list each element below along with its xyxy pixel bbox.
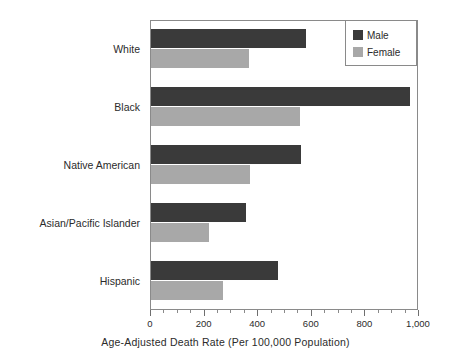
x-tick-label: 800 [356,318,372,329]
x-tick-label: 400 [249,318,265,329]
legend-entry-male: Male [353,28,389,42]
bar-group-hispanic [151,253,417,311]
x-tick-minor [177,310,178,313]
legend-label-female: Female [367,47,400,58]
bar-asian-pacific-islander-female [151,223,209,242]
bar-chart: White Black Native American Asian/Pacifi… [0,0,451,361]
bar-group-black [151,79,417,137]
category-label-black: Black [0,101,140,113]
x-tick-label: 600 [303,318,319,329]
x-tick-minor [244,310,245,313]
x-tick-label: 1,000 [406,318,430,329]
bar-native-american-male [151,145,301,164]
x-tick-minor [284,310,285,313]
bar-asian-pacific-islander-male [151,203,246,222]
category-label-hispanic: Hispanic [0,275,140,287]
x-tick-label: 0 [147,318,152,329]
x-tick-major [418,310,419,316]
legend-entry-female: Female [353,45,400,59]
bar-white-male [151,29,306,48]
x-tick-minor [217,310,218,313]
bar-hispanic-female [151,281,223,300]
x-tick-minor [190,310,191,313]
bar-black-male [151,87,410,106]
category-label-white: White [0,43,140,55]
x-tick-minor [271,310,272,313]
legend-swatch-male [353,30,363,40]
x-tick-major [204,310,205,316]
legend-swatch-female [353,47,363,57]
x-tick-minor [297,310,298,313]
x-tick-major [311,310,312,316]
x-tick-major [257,310,258,316]
x-tick-minor [351,310,352,313]
category-label-native-american: Native American [0,159,140,171]
bar-hispanic-male [151,261,278,280]
bar-black-female [151,107,300,126]
bar-native-american-female [151,165,250,184]
category-label-asian-pacific-islander: Asian/Pacific Islander [0,217,140,229]
x-tick-major [364,310,365,316]
x-tick-minor [405,310,406,313]
x-tick-minor [163,310,164,313]
legend-label-male: Male [367,30,389,41]
x-tick-major [150,310,151,316]
x-axis-title: Age-Adjusted Death Rate (Per 100,000 Pop… [0,336,451,348]
bar-group-native-american [151,137,417,195]
x-tick-minor [378,310,379,313]
x-tick-minor [391,310,392,313]
x-tick-label: 200 [196,318,212,329]
x-tick-minor [324,310,325,313]
bar-group-asian-pacific-islander [151,195,417,253]
bar-white-female [151,49,249,68]
x-axis: 02004006008001,000 [150,310,418,338]
legend: Male Female [345,20,417,66]
x-tick-minor [230,310,231,313]
x-tick-minor [338,310,339,313]
category-axis-labels: White Black Native American Asian/Pacifi… [0,20,145,310]
